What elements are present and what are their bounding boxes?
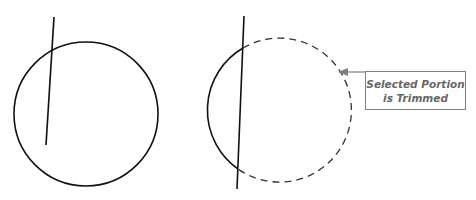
trimmed-arc-dashed xyxy=(238,38,351,182)
callout-line-1: Selected Portion xyxy=(366,77,464,91)
after-figure xyxy=(207,16,351,189)
callout-line-2: is Trimmed xyxy=(383,91,448,105)
original-circle xyxy=(14,42,158,186)
cutting-line xyxy=(46,17,54,145)
callout-box: Selected Portion is Trimmed xyxy=(365,71,466,110)
kept-arc xyxy=(207,48,243,169)
before-figure xyxy=(14,17,158,186)
cutting-line xyxy=(237,16,244,189)
